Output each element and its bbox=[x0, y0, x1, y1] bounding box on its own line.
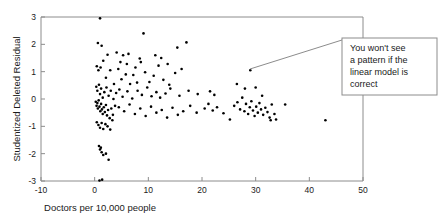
data-point bbox=[169, 87, 172, 90]
data-point bbox=[216, 106, 219, 109]
data-point bbox=[99, 17, 102, 20]
callout-text-line-4: correct bbox=[350, 79, 378, 89]
x-axis-ticks bbox=[41, 177, 363, 181]
data-point bbox=[268, 116, 271, 119]
data-point bbox=[136, 81, 139, 84]
data-point bbox=[273, 113, 276, 116]
data-point bbox=[106, 125, 109, 128]
data-point bbox=[101, 113, 104, 116]
data-point bbox=[139, 107, 142, 110]
data-point bbox=[96, 102, 99, 105]
data-point bbox=[178, 94, 181, 97]
data-point bbox=[284, 103, 287, 106]
plot-canvas: -1001020304050 -3-2-10123 You won't see … bbox=[0, 0, 445, 224]
data-point bbox=[229, 118, 232, 121]
data-point bbox=[107, 109, 110, 112]
data-point bbox=[269, 119, 272, 122]
data-point bbox=[254, 86, 257, 89]
data-point bbox=[152, 74, 155, 77]
data-point bbox=[236, 83, 239, 86]
data-point bbox=[134, 66, 137, 69]
data-point bbox=[107, 94, 110, 97]
data-point bbox=[157, 64, 160, 67]
data-point bbox=[166, 116, 169, 119]
callout-text-line-1: You won't see bbox=[350, 43, 405, 53]
data-point bbox=[266, 111, 269, 114]
scatter-plot-figure: -1001020304050 -3-2-10123 You won't see … bbox=[0, 0, 445, 224]
data-point bbox=[182, 110, 185, 113]
data-point bbox=[105, 86, 108, 89]
data-point bbox=[98, 83, 101, 86]
data-point bbox=[245, 103, 248, 106]
data-point bbox=[121, 96, 124, 99]
x-tick-label: 0 bbox=[92, 185, 97, 195]
data-point bbox=[99, 93, 102, 96]
data-point bbox=[112, 114, 115, 117]
data-point bbox=[99, 66, 102, 69]
data-point bbox=[118, 88, 121, 91]
x-tick-label: 10 bbox=[144, 185, 154, 195]
data-point bbox=[159, 96, 162, 99]
data-point bbox=[258, 102, 261, 105]
y-tick-label: -3 bbox=[28, 176, 36, 186]
data-point bbox=[160, 57, 163, 60]
data-point bbox=[109, 128, 112, 131]
data-point bbox=[253, 115, 256, 118]
data-point bbox=[95, 85, 98, 88]
data-point bbox=[120, 78, 123, 81]
data-point bbox=[255, 105, 258, 108]
data-point bbox=[108, 117, 111, 120]
data-point bbox=[209, 90, 212, 93]
data-point bbox=[207, 103, 210, 106]
data-point bbox=[100, 122, 103, 125]
data-point bbox=[164, 92, 167, 95]
data-point bbox=[107, 158, 110, 161]
data-point bbox=[185, 41, 188, 44]
data-point bbox=[136, 90, 139, 93]
data-point bbox=[131, 97, 134, 100]
data-point bbox=[97, 124, 100, 127]
data-point bbox=[148, 81, 151, 84]
data-point bbox=[142, 32, 145, 35]
data-point bbox=[100, 103, 103, 106]
data-point bbox=[102, 128, 105, 131]
data-point bbox=[154, 54, 157, 57]
data-point bbox=[236, 101, 239, 104]
data-point bbox=[106, 114, 109, 117]
y-tick-label: 3 bbox=[31, 12, 36, 22]
callout-leader-line bbox=[250, 40, 342, 69]
data-point bbox=[162, 79, 165, 82]
data-point bbox=[122, 54, 125, 57]
data-point bbox=[100, 146, 103, 149]
data-point bbox=[97, 69, 100, 72]
data-point bbox=[239, 108, 242, 111]
data-point bbox=[144, 115, 147, 118]
data-point bbox=[196, 93, 199, 96]
data-point bbox=[128, 103, 131, 106]
data-point bbox=[96, 65, 99, 68]
data-point bbox=[101, 96, 104, 99]
data-point bbox=[176, 46, 179, 49]
data-point bbox=[113, 83, 116, 86]
data-point bbox=[96, 121, 99, 124]
data-point bbox=[109, 90, 112, 93]
data-point bbox=[213, 94, 216, 97]
data-point bbox=[97, 99, 100, 102]
data-point bbox=[106, 53, 109, 56]
data-point bbox=[250, 100, 253, 103]
data-point bbox=[127, 53, 130, 56]
data-point bbox=[252, 109, 255, 112]
data-point bbox=[100, 44, 103, 47]
data-point bbox=[105, 104, 108, 107]
x-tick-label: 30 bbox=[251, 185, 261, 195]
annotation-callout: You won't see a pattern if the linear mo… bbox=[250, 38, 437, 95]
callout-text-line-3: linear model is bbox=[350, 67, 409, 77]
data-point bbox=[123, 110, 126, 113]
data-point bbox=[95, 105, 98, 108]
data-point bbox=[132, 74, 135, 77]
scatter-points bbox=[94, 17, 326, 182]
x-tick-label: -10 bbox=[35, 185, 48, 195]
y-axis-tick-labels: -3-2-10123 bbox=[28, 12, 36, 186]
data-point bbox=[180, 68, 183, 71]
data-point bbox=[102, 59, 105, 62]
